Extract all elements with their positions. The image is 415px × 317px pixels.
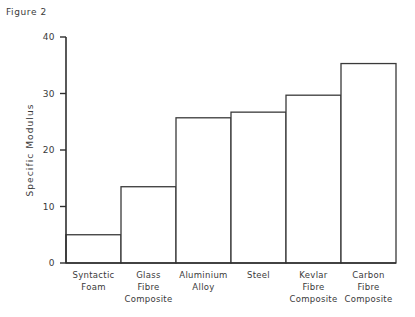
y-tick-label: 20	[43, 145, 55, 155]
y-tick-label: 10	[43, 202, 55, 212]
x-axis-category-labels: SyntacticFoamGlassFibreCompositeAluminiu…	[72, 270, 392, 304]
x-category-label: Composite	[344, 294, 392, 304]
x-category-label: Foam	[81, 282, 105, 292]
x-category-label: Syntactic	[72, 270, 114, 280]
bar-chart: 010203040 Specific Modulus SyntacticFoam…	[0, 0, 415, 317]
bar	[66, 235, 121, 263]
bar	[341, 64, 396, 263]
x-category-label: Kevlar	[299, 270, 327, 280]
x-category-label: Composite	[289, 294, 337, 304]
y-axis-label: Specific Modulus	[25, 103, 35, 196]
bar	[286, 95, 341, 263]
bar	[231, 112, 286, 263]
bar	[121, 187, 176, 263]
x-category-label: Fibre	[137, 282, 159, 292]
y-tick-label: 30	[43, 89, 55, 99]
y-axis-label-text: Specific Modulus	[25, 103, 35, 196]
x-category-label: Alloy	[192, 282, 214, 292]
y-tick-label: 40	[43, 32, 55, 42]
y-tick-label: 0	[49, 258, 55, 268]
x-category-label: Fibre	[357, 282, 379, 292]
x-category-label: Steel	[247, 270, 270, 280]
x-category-label: Fibre	[302, 282, 324, 292]
x-category-label: Composite	[124, 294, 172, 304]
x-category-label: Carbon	[352, 270, 384, 280]
bars-group	[66, 64, 396, 263]
bar	[176, 118, 231, 263]
x-category-label: Glass	[136, 270, 161, 280]
y-axis-ticks: 010203040	[43, 32, 66, 268]
x-category-label: Aluminium	[179, 270, 227, 280]
